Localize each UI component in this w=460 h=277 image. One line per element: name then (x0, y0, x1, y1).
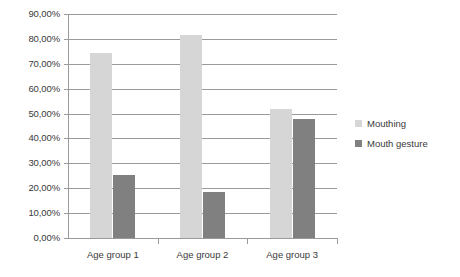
bar-mouthing (270, 109, 292, 238)
y-axis-label: 70,00% (0, 58, 60, 69)
x-axis-label: Age group 2 (158, 249, 248, 260)
bar-mouthing (180, 35, 202, 238)
bar-mouthing (90, 53, 112, 238)
y-axis-label: 60,00% (0, 83, 60, 94)
bar-chart: 0,00%10,00%20,00%30,00%40,00%50,00%60,00… (0, 0, 460, 277)
legend-item: Mouth gesture (355, 138, 428, 149)
legend-swatch-icon (355, 140, 362, 147)
y-axis-label: 10,00% (0, 207, 60, 218)
y-axis-label: 20,00% (0, 182, 60, 193)
x-axis-tick (337, 238, 338, 244)
bar-group (180, 14, 225, 238)
x-axis-label: Age group 3 (247, 249, 337, 260)
y-axis-label: 90,00% (0, 8, 60, 19)
bar-mouth-gesture (293, 119, 315, 238)
y-axis-label: 0,00% (0, 232, 60, 243)
bar-group (270, 14, 315, 238)
bar-mouth-gesture (203, 192, 225, 238)
plot-area (68, 14, 337, 238)
legend-label: Mouthing (367, 118, 406, 129)
y-axis-label: 50,00% (0, 108, 60, 119)
x-axis-tick (158, 238, 159, 244)
x-axis-tick (247, 238, 248, 244)
legend-item: Mouthing (355, 118, 428, 129)
y-axis-label: 40,00% (0, 132, 60, 143)
bar-mouth-gesture (113, 175, 135, 238)
chart-legend: MouthingMouth gesture (355, 118, 428, 158)
legend-swatch-icon (355, 120, 362, 127)
y-axis-label: 30,00% (0, 157, 60, 168)
bar-group (90, 14, 135, 238)
x-axis-line (68, 238, 338, 239)
legend-label: Mouth gesture (367, 138, 428, 149)
y-axis-label: 80,00% (0, 33, 60, 44)
x-axis-label: Age group 1 (68, 249, 158, 260)
y-axis-tick (64, 238, 69, 239)
